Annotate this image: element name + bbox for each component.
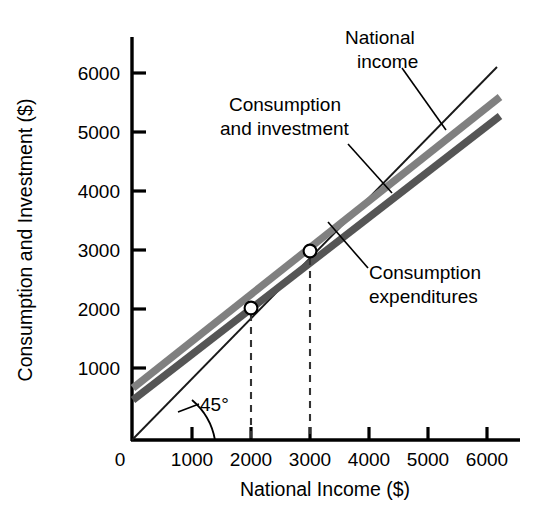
annotation-consumption-and-investment-line1: Consumption (229, 94, 341, 115)
x-tick-label-1000: 1000 (171, 449, 213, 470)
y-tick-label-3000: 3000 (78, 240, 120, 261)
y-tick-label-2000: 2000 (78, 299, 120, 320)
annotation-consumption-expenditures-line2: expenditures (369, 286, 478, 307)
y-tick-label-1000: 1000 (78, 358, 120, 379)
annotation-national-income-line1: National (345, 27, 415, 48)
x-tick-labels: 0 1000 2000 3000 4000 5000 6000 (115, 449, 508, 470)
x-axis-title: National Income ($) (240, 478, 410, 500)
y-tick-label-6000: 6000 (78, 63, 120, 84)
x-tick-label-3000: 3000 (289, 449, 331, 470)
marker-point-3000 (304, 245, 317, 258)
y-tick-label-5000: 5000 (78, 122, 120, 143)
x-tick-label-2000: 2000 (230, 449, 272, 470)
x-tick-label-4000: 4000 (348, 449, 390, 470)
angle-label: 45° (200, 394, 229, 415)
consumption-investment-chart: 6000 5000 4000 3000 2000 1000 0 1000 200… (0, 0, 548, 522)
annotation-national-income-line2: income (357, 51, 418, 72)
x-tick-label-5000: 5000 (407, 449, 449, 470)
x-tick-label-6000: 6000 (466, 449, 508, 470)
annotation-consumption-and-investment-line2: and investment (220, 118, 350, 139)
y-axis-title: Consumption and Investment ($) (14, 99, 36, 382)
annotation-consumption-expenditures-line1: Consumption (369, 262, 481, 283)
marker-point-2000 (245, 302, 258, 315)
y-tick-label-4000: 4000 (78, 181, 120, 202)
x-tick-label-0: 0 (115, 449, 126, 470)
